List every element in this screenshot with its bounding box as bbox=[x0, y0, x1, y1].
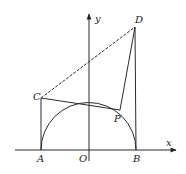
segment-CP bbox=[41, 98, 120, 110]
label-C: C bbox=[33, 91, 41, 102]
label-D: D bbox=[134, 14, 143, 25]
label-y: y bbox=[94, 13, 101, 24]
segment-DP bbox=[120, 27, 135, 110]
segment-BD bbox=[135, 27, 136, 150]
label-P: P bbox=[113, 113, 121, 124]
label-B: B bbox=[132, 153, 140, 164]
segment-CD bbox=[41, 27, 135, 98]
geometry-diagram: y x O A B C D P bbox=[0, 0, 186, 174]
label-x: x bbox=[166, 137, 172, 148]
label-A: A bbox=[36, 153, 44, 164]
label-O: O bbox=[79, 153, 87, 164]
